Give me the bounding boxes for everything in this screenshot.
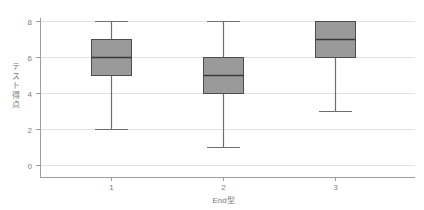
x-tick-label-1: 1: [109, 183, 114, 192]
plot-canvas: 8 6 4 2 0: [0, 0, 424, 210]
x-tick-label-2: 2: [221, 183, 226, 192]
y-tick-label-2: 2: [28, 126, 33, 135]
x-tick-label-3: 3: [333, 183, 338, 192]
chart-background: [0, 0, 424, 210]
y-tick-label-4: 4: [28, 90, 33, 99]
y-axis-title: テスト得点: [9, 62, 23, 110]
boxplot-chart: 8 6 4 2 0: [0, 0, 424, 210]
y-tick-label-0: 0: [28, 162, 33, 171]
y-tick-label-6: 6: [28, 54, 33, 63]
y-tick-label-8: 8: [28, 18, 33, 27]
x-axis-title: End型: [212, 196, 234, 205]
